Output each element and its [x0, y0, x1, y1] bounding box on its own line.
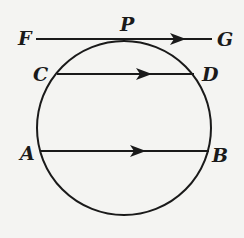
label-b: B [211, 144, 228, 166]
label-g: G [217, 28, 233, 50]
geometry-diagram: F P G C D A B [0, 0, 244, 238]
label-a: A [18, 142, 35, 164]
label-d: D [201, 63, 219, 85]
circle [37, 41, 211, 215]
label-f: F [17, 27, 33, 49]
diagram-canvas: F P G C D A B [0, 0, 244, 238]
label-c: C [33, 63, 48, 85]
label-p: P [119, 13, 135, 35]
